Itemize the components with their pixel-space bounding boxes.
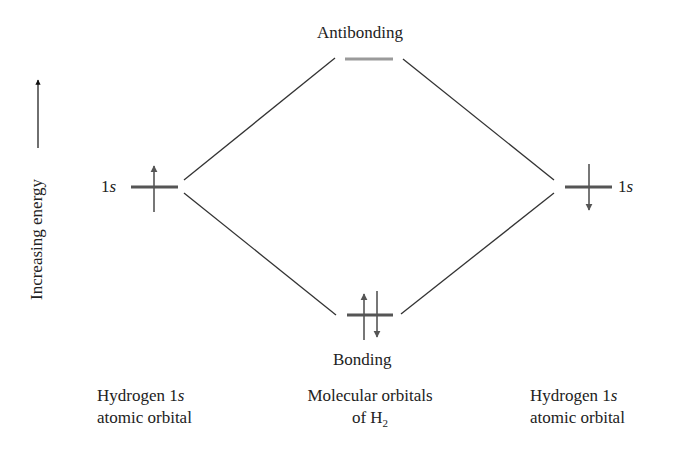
caption-left-line1: Hydrogen 1s [97, 386, 192, 406]
right-1s-level [565, 164, 612, 210]
connector-lines [184, 58, 554, 315]
right-1s-label-italic: s [627, 177, 634, 196]
connector-left-to-antibonding [184, 58, 335, 180]
caption-center-line2-text: of H [352, 408, 383, 427]
caption-center-line2: of H2 [283, 408, 457, 428]
bonding-label: Bonding [333, 350, 392, 370]
caption-right-line2: atomic orbital [530, 408, 625, 428]
bonding-level [347, 291, 393, 340]
caption-right-line1: Hydrogen 1s [530, 386, 625, 406]
energy-axis-label: Increasing energy [27, 179, 47, 300]
caption-left-line2: atomic orbital [97, 408, 192, 428]
left-1s-label-prefix: 1 [101, 177, 110, 196]
caption-center: Molecular orbitals of H2 [283, 386, 457, 428]
caption-right-line1-text: Hydrogen 1 [530, 386, 611, 405]
caption-left: Hydrogen 1s atomic orbital [97, 386, 192, 428]
connector-bonding-to-right [401, 193, 554, 314]
right-1s-label: 1s [618, 177, 633, 197]
antibonding-label: Antibonding [317, 23, 403, 43]
caption-left-line1-italic: s [178, 386, 185, 405]
connector-antibonding-to-right [403, 59, 554, 180]
connector-left-to-bonding [184, 193, 336, 315]
caption-center-line2-subscript: 2 [383, 417, 389, 429]
left-1s-level [131, 166, 178, 212]
caption-right-line1-italic: s [611, 386, 618, 405]
caption-center-line1: Molecular orbitals [283, 386, 457, 406]
left-1s-label: 1s [101, 177, 116, 197]
left-1s-label-italic: s [110, 177, 117, 196]
right-1s-label-prefix: 1 [618, 177, 627, 196]
caption-right: Hydrogen 1s atomic orbital [530, 386, 625, 428]
caption-left-line1-text: Hydrogen 1 [97, 386, 178, 405]
